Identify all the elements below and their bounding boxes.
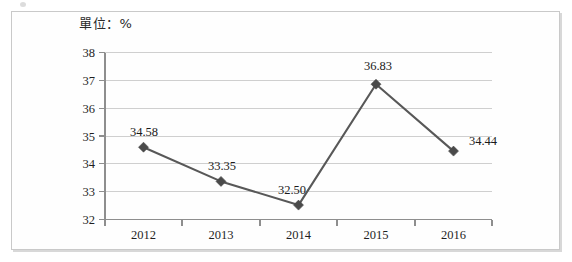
data-point-label: 34.44 (469, 134, 498, 148)
chart-figure: 單位：% 38 37 36 35 3 (0, 0, 572, 262)
line-chart-plot: 38 37 36 35 34 33 32 2012 2013 2014 2015… (0, 0, 572, 262)
data-point-marker (216, 176, 226, 186)
y-tick-label: 35 (83, 130, 96, 144)
y-tick-label: 32 (83, 213, 96, 227)
data-point-label: 36.83 (364, 59, 392, 73)
y-tick-label: 34 (83, 157, 96, 171)
x-axis (105, 220, 492, 227)
y-tick-label: 38 (83, 46, 96, 60)
data-point-marker (139, 142, 149, 152)
x-tick-labels: 2012 2013 2014 2015 2016 (131, 228, 466, 242)
x-tick-label: 2012 (131, 228, 156, 242)
y-tick-label: 36 (83, 102, 96, 116)
x-tick-label: 2015 (364, 228, 389, 242)
data-point-labels: 34.58 33.35 32.50 36.83 34.44 (130, 59, 498, 197)
data-point-marker (294, 200, 304, 210)
x-tick-label: 2014 (286, 228, 312, 242)
x-tick-label: 2013 (209, 228, 234, 242)
data-point-label: 34.58 (130, 125, 158, 139)
data-point-label: 32.50 (278, 183, 306, 197)
y-axis (99, 53, 105, 220)
y-tick-label: 37 (83, 74, 96, 88)
data-point-label: 33.35 (208, 159, 236, 173)
x-tick-label: 2016 (441, 228, 466, 242)
y-tick-label: 33 (83, 185, 96, 199)
y-tick-labels: 38 37 36 35 34 33 32 (83, 46, 96, 227)
